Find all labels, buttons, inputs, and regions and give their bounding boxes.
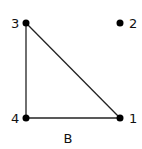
- node-label-2: 2: [129, 16, 137, 31]
- edges: [26, 23, 120, 118]
- node-label-1: 1: [129, 111, 137, 126]
- node-4: [23, 115, 30, 122]
- edge-3-1: [26, 23, 120, 118]
- node-label-4: 4: [11, 111, 19, 126]
- node-1: [117, 115, 124, 122]
- graph-diagram: 1234 B: [0, 0, 142, 149]
- caption: B: [64, 131, 73, 146]
- node-3: [23, 20, 30, 27]
- node-label-3: 3: [11, 16, 19, 31]
- node-2: [117, 20, 124, 27]
